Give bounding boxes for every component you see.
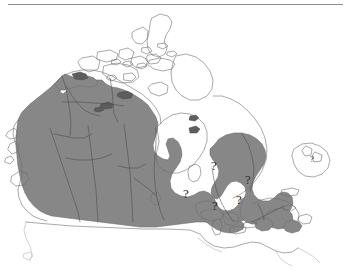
coast-banks-island	[78, 56, 100, 72]
us-lakes-south	[198, 238, 222, 252]
canada-range-map: ? ? ? ? ? ?	[0, 8, 351, 270]
figure-top-rule	[8, 4, 343, 5]
range-patch-ungava	[189, 126, 200, 133]
question-mark-southern-ontario: ?	[236, 192, 242, 207]
range-polygon-nova-scotia	[283, 220, 302, 233]
question-mark-james-bay: ?	[211, 158, 217, 173]
question-mark-northwestern-ontario: ?	[212, 198, 218, 213]
question-mark-southern-manitoba: ?	[183, 186, 189, 201]
coast-ellesmere-island	[147, 14, 172, 57]
us-coast-east	[298, 248, 320, 263]
coast-axel-heiberg-island	[132, 27, 148, 44]
coast-small-island-a	[112, 59, 121, 65]
coast-southampton-island	[148, 82, 168, 96]
coast-small-island-e	[158, 43, 168, 49]
coast-prince-of-wales-island	[131, 56, 148, 68]
coast-cape-breton	[298, 214, 312, 224]
figure-caption	[10, 268, 345, 278]
coast-small-island-g	[167, 51, 177, 57]
map-svg: ? ? ? ? ? ?	[0, 8, 351, 270]
us-coast-west	[24, 222, 32, 261]
figure-page: ? ? ? ? ? ?	[0, 0, 351, 279]
coast-melville-island	[97, 50, 118, 62]
coast-devon-island	[148, 58, 175, 71]
question-mark-newfoundland: ?	[310, 154, 314, 164]
coast-king-william-island	[124, 73, 136, 81]
coast-james-bay	[188, 164, 201, 182]
coast-baffin-island	[171, 54, 213, 100]
question-mark-central-quebec: ?	[245, 172, 251, 187]
coast-small-pacific-island	[5, 156, 14, 164]
